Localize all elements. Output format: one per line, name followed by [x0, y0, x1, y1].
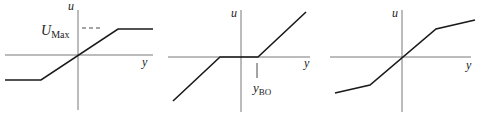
u-axis-label: u — [231, 6, 237, 20]
gain-change-curve — [335, 20, 475, 93]
saturation-curve — [5, 29, 153, 80]
dead-zone-curve — [173, 12, 306, 101]
u-axis-label: u — [392, 6, 398, 20]
ybo-label: yBO — [251, 80, 272, 97]
u-axis-label: u — [68, 0, 74, 13]
nonlinearity-diagrams: UMax u y yBO u y u y — [0, 0, 480, 118]
y-axis-label: y — [141, 55, 148, 69]
y-axis-label: y — [303, 56, 310, 70]
y-axis-label: y — [465, 58, 472, 72]
umax-label: UMax — [41, 23, 69, 40]
panel-dead-zone: yBO u y — [168, 6, 310, 112]
panel-gain-change: u y — [330, 6, 475, 112]
panel-saturation: UMax u y — [5, 0, 153, 110]
